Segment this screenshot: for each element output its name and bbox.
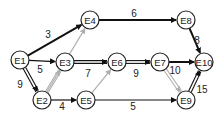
edge-E1-E3 bbox=[29, 60, 55, 61]
edge-weight-label: 5 bbox=[130, 101, 136, 112]
node-label: E1 bbox=[14, 55, 26, 66]
node-E6: E6 bbox=[108, 53, 126, 71]
node-label: E6 bbox=[111, 57, 123, 68]
edge-E1-E4 bbox=[28, 25, 82, 56]
node-E1: E1 bbox=[11, 51, 29, 69]
edge-weight-label: 5 bbox=[37, 64, 43, 75]
edge-weight-label: 6 bbox=[131, 8, 137, 19]
node-E8: E8 bbox=[177, 11, 195, 29]
edge-weight-label: 9 bbox=[17, 79, 23, 90]
edge-E1-E2 bbox=[23, 67, 38, 92]
node-label: E8 bbox=[180, 15, 192, 26]
node-E5: E5 bbox=[77, 91, 95, 109]
node-label: E10 bbox=[196, 57, 213, 68]
nodes-layer: E1E2E3E4E5E6E7E8E9E10 bbox=[11, 11, 213, 109]
edge-weight-label: 3 bbox=[45, 29, 51, 40]
node-E4: E4 bbox=[81, 11, 99, 29]
edge-weight-label: 15 bbox=[196, 84, 208, 95]
node-E2: E2 bbox=[33, 91, 51, 109]
node-label: E2 bbox=[36, 95, 48, 106]
node-label: E7 bbox=[154, 57, 166, 68]
edge-E5-E6 bbox=[92, 70, 111, 93]
node-E9: E9 bbox=[177, 91, 195, 109]
node-label: E4 bbox=[84, 15, 96, 26]
edge-weight-label: 4 bbox=[59, 101, 65, 112]
edge-weight-label: 10 bbox=[169, 65, 181, 76]
node-label: E9 bbox=[180, 95, 192, 106]
node-label: E3 bbox=[59, 57, 71, 68]
network-diagram: 3594769108515 E1E2E3E4E5E6E7E8E9E10 bbox=[0, 0, 224, 120]
node-E7: E7 bbox=[151, 53, 169, 71]
edge-E3-E6 bbox=[74, 61, 107, 64]
edge-E6-E7 bbox=[126, 61, 150, 64]
node-E10: E10 bbox=[195, 53, 213, 71]
node-E3: E3 bbox=[56, 53, 74, 71]
diagram-canvas: 3594769108515 E1E2E3E4E5E6E7E8E9E10 bbox=[0, 0, 224, 120]
edge-weight-label: 9 bbox=[133, 68, 139, 79]
edge-weight-label: 7 bbox=[85, 68, 91, 79]
edge-weight-label: 8 bbox=[194, 35, 200, 46]
node-label: E5 bbox=[80, 95, 92, 106]
